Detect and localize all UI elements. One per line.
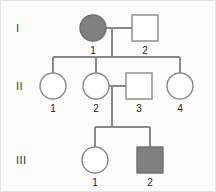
individual-ii-2-circle-unaffected[interactable] (83, 73, 109, 99)
individual-ii-1-circle-unaffected[interactable] (40, 73, 66, 99)
individual-number-i-1: 1 (90, 45, 96, 56)
individual-number-ii-1: 1 (50, 103, 56, 114)
individual-number-ii-3: 3 (136, 103, 142, 114)
generation-labels: IIIIII (16, 22, 27, 166)
individual-number-ii-4: 4 (177, 103, 183, 114)
individual-number-iii-2: 2 (147, 177, 153, 188)
individual-number-ii-2: 2 (93, 103, 99, 114)
individual-iii-2-square-affected[interactable] (137, 147, 163, 173)
individual-iii-1-circle-unaffected[interactable] (82, 147, 108, 173)
connection-lines (53, 28, 180, 147)
individual-i-2-square-unaffected[interactable] (132, 15, 158, 41)
individual-number-i-2: 2 (142, 45, 148, 56)
pedigree-canvas: 12123412 IIIIII (0, 0, 216, 192)
individual-i-1-circle-affected[interactable] (80, 15, 106, 41)
generation-label-ii: II (16, 80, 23, 92)
generation-label-iii: III (16, 154, 27, 166)
individual-ii-3-square-unaffected[interactable] (126, 73, 152, 99)
individual-number-iii-1: 1 (92, 177, 98, 188)
generation-label-i: I (16, 22, 20, 34)
individual-symbols (40, 15, 193, 173)
individual-ii-4-circle-unaffected[interactable] (167, 73, 193, 99)
pedigree-chart: 12123412 IIIIII (0, 0, 216, 192)
